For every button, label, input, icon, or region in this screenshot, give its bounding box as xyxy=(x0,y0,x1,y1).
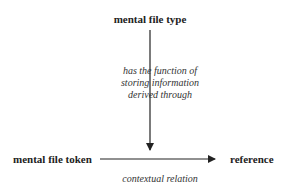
node-mental-file-token: mental file token xyxy=(13,154,92,165)
vertical-edge-label-line: derived through xyxy=(121,89,199,101)
node-mental-file-type: mental file type xyxy=(114,14,187,25)
vertical-edge-label-line: has the function of xyxy=(121,65,199,77)
node-reference: reference xyxy=(230,154,274,165)
vertical-edge-label-line: storing information xyxy=(121,77,199,89)
vertical-edge-label: has the function of storing information … xyxy=(121,65,199,101)
horizontal-edge-label: contextual relation xyxy=(122,173,197,185)
